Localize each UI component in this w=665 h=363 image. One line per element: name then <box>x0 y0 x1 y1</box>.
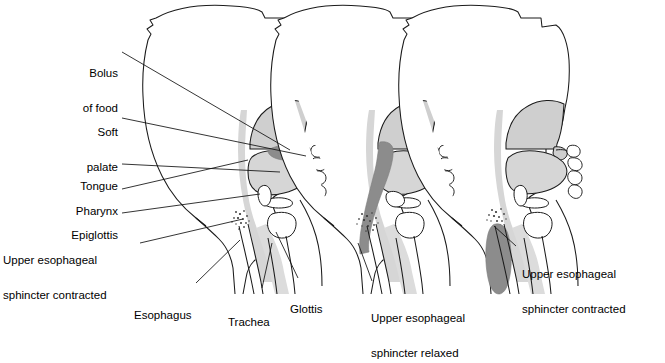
label-ues-contracted-right: Upper esophageal sphincter contracted <box>522 246 662 338</box>
glottis-1 <box>268 212 297 238</box>
label-glottis-line1: Glottis <box>290 304 323 316</box>
label-esophagus: Esophagus <box>134 287 192 345</box>
label-ues-relaxed-line2: sphincter relaxed <box>371 348 511 360</box>
vertebrae-3 <box>567 145 582 198</box>
tongue-3 <box>506 151 567 194</box>
label-trachea: Trachea <box>228 294 270 352</box>
glottis-2 <box>396 212 425 238</box>
label-ues-relaxed-line1: Upper esophageal <box>371 313 511 325</box>
epiglottis-1 <box>258 185 271 206</box>
label-soft-palate-line1: Soft <box>20 127 118 139</box>
label-glottis: Glottis <box>290 281 323 339</box>
label-trachea-line1: Trachea <box>228 317 270 329</box>
epiglottis-3 <box>514 185 527 206</box>
label-esophagus-line1: Esophagus <box>134 310 192 322</box>
label-ues-contracted-left: Upper esophageal sphincter contracted <box>3 232 137 324</box>
label-ues-relaxed: Upper esophageal sphincter relaxed <box>371 290 511 363</box>
label-bolus-of-food-line1: Bolus <box>20 68 118 80</box>
trachea-wall-2 <box>414 236 423 294</box>
label-ues-contracted-right-line2: sphincter contracted <box>522 304 662 316</box>
glottis-3 <box>524 212 553 238</box>
label-ues-contracted-right-line1: Upper esophageal <box>522 269 662 281</box>
label-ues-contracted-left-line2: sphincter contracted <box>3 290 137 302</box>
label-ues-contracted-left-line1: Upper esophageal <box>3 255 137 267</box>
